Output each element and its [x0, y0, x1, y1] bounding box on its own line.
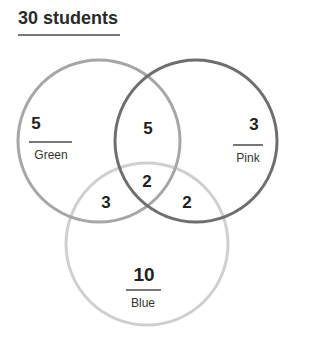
pink-circle [115, 60, 277, 222]
pink-blue-count: 2 [182, 193, 191, 213]
pink-label: Pink [236, 151, 259, 165]
green-label-rule [29, 141, 72, 143]
pink-only-count: 3 [249, 115, 258, 135]
green-label: Green [34, 148, 67, 162]
green-blue-count: 3 [101, 193, 110, 213]
blue-only-count: 10 [133, 264, 154, 286]
blue-label-rule [126, 289, 161, 291]
blue-label: Blue [131, 296, 155, 310]
green-pink-count: 5 [143, 119, 152, 139]
green-only-count: 5 [31, 114, 40, 134]
all-three-count: 2 [142, 172, 151, 192]
pink-label-rule [233, 144, 263, 146]
